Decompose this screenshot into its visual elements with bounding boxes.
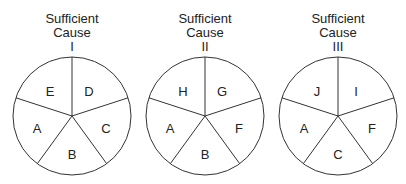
slice-label: E <box>46 84 55 99</box>
spoke <box>16 98 72 116</box>
spoke <box>149 98 205 116</box>
spoke <box>205 98 261 116</box>
slice-label: B <box>68 147 77 162</box>
slice-label: A <box>166 121 175 136</box>
spoke <box>282 98 338 116</box>
slice-label: C <box>333 147 342 162</box>
slice-label: B <box>201 147 210 162</box>
slice-label: I <box>354 84 358 99</box>
slice-label: F <box>368 121 376 136</box>
slice-label: A <box>33 121 42 136</box>
slice-label: H <box>178 84 187 99</box>
slice-label: A <box>300 121 309 136</box>
pies-canvas: E D A B C H G A B F J I A C F <box>0 0 406 184</box>
spoke <box>72 98 128 116</box>
slice-label: D <box>84 84 93 99</box>
pie-2-labels: H G A B F <box>166 84 243 162</box>
spoke <box>338 98 394 116</box>
slice-label: C <box>101 121 110 136</box>
slice-label: J <box>314 84 321 99</box>
slice-label: G <box>217 84 227 99</box>
slice-label: F <box>235 121 243 136</box>
